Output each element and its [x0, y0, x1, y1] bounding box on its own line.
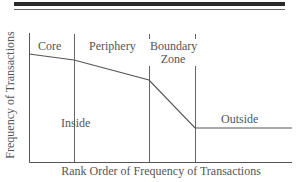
region-label-core: Core: [38, 40, 61, 53]
region-label-periphery: Periphery: [89, 40, 136, 53]
x-axis-label: Rank Order of Frequency of Transactions: [30, 164, 292, 179]
boundary-line2: Zone: [150, 53, 196, 66]
region-label-boundary: Boundary Zone: [150, 40, 196, 66]
y-axis-label: Frequency of Transactions: [3, 25, 18, 165]
annotation-inside: Inside: [61, 117, 90, 130]
chart-plot: [0, 0, 305, 182]
annotation-outside: Outside: [221, 113, 258, 126]
